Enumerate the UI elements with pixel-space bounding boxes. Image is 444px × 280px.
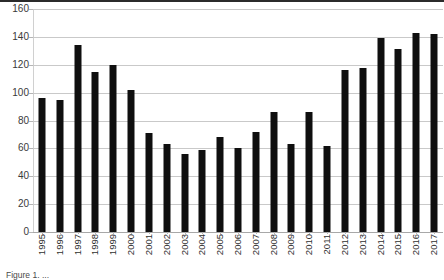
bar-slot (158, 9, 176, 232)
x-axis-tick-label: 2007 (251, 234, 261, 255)
bar-slot (122, 9, 140, 232)
bar[interactable] (128, 90, 135, 232)
figure-caption: Figure 1. ... (6, 270, 442, 280)
bar-slot (140, 9, 158, 232)
bar[interactable] (252, 132, 259, 232)
x-tick-slot: 2009 (283, 234, 301, 268)
x-tick-slot: 2007 (247, 234, 265, 268)
x-tick-slot: 2000 (122, 234, 140, 268)
x-axis-tick-labels: 1995199619971998199920002001200220032004… (33, 234, 443, 268)
x-axis-tick-label: 2009 (287, 234, 297, 255)
bar[interactable] (431, 34, 438, 232)
x-tick-slot: 1999 (104, 234, 122, 268)
bar[interactable] (181, 154, 188, 232)
bar-slot (193, 9, 211, 232)
x-tick-slot: 2010 (300, 234, 318, 268)
y-axis-tick-labels: 020406080100120140160 (0, 9, 29, 232)
y-axis-tick-label: 160 (0, 4, 29, 14)
bar[interactable] (413, 33, 420, 232)
bar[interactable] (377, 38, 384, 232)
x-axis-tick-label: 2002 (162, 234, 172, 255)
bar[interactable] (341, 70, 348, 232)
bar[interactable] (92, 72, 99, 232)
x-axis-tick-label: 1996 (55, 234, 65, 255)
bar[interactable] (163, 144, 170, 232)
bar[interactable] (56, 100, 63, 232)
y-axis-tick-label: 80 (0, 116, 29, 126)
x-tick-slot: 2016 (407, 234, 425, 268)
bar-slot (300, 9, 318, 232)
x-axis-tick-label: 1998 (91, 234, 101, 255)
bar-slot (229, 9, 247, 232)
x-tick-slot: 2011 (318, 234, 336, 268)
bar-slot (425, 9, 443, 232)
bar-slot (354, 9, 372, 232)
bar-slot (283, 9, 301, 232)
bar-slot (104, 9, 122, 232)
y-axis-tick-mark (29, 232, 33, 233)
x-tick-slot: 2014 (372, 234, 390, 268)
y-axis-tick-label: 140 (0, 32, 29, 42)
x-tick-slot: 2004 (193, 234, 211, 268)
bar-slot (390, 9, 408, 232)
bar-series (33, 9, 443, 232)
x-axis-tick-label: 2003 (180, 234, 190, 255)
x-tick-slot: 2001 (140, 234, 158, 268)
y-axis-tick-label: 120 (0, 60, 29, 70)
figure-top-rule (0, 0, 444, 2)
bar-slot (211, 9, 229, 232)
x-axis-tick-label: 2016 (412, 234, 422, 255)
x-axis-tick-label: 1995 (37, 234, 47, 255)
bar[interactable] (324, 146, 331, 232)
bar[interactable] (145, 133, 152, 232)
x-tick-slot: 2012 (336, 234, 354, 268)
bar-slot (33, 9, 51, 232)
bar[interactable] (306, 112, 313, 232)
y-axis-tick-label: 100 (0, 88, 29, 98)
bar[interactable] (74, 45, 81, 232)
x-tick-slot: 2015 (390, 234, 408, 268)
plot-area (33, 9, 443, 232)
bar-slot (318, 9, 336, 232)
x-axis-tick-label: 2015 (394, 234, 404, 255)
bar[interactable] (110, 65, 117, 232)
bar[interactable] (395, 49, 402, 232)
x-axis-tick-label: 2011 (322, 234, 332, 254)
bar[interactable] (199, 150, 206, 232)
bar-slot (407, 9, 425, 232)
bar-slot (372, 9, 390, 232)
x-tick-slot: 2005 (211, 234, 229, 268)
x-tick-slot: 1996 (51, 234, 69, 268)
bar[interactable] (38, 98, 45, 232)
x-tick-slot: 2008 (265, 234, 283, 268)
bar[interactable] (288, 144, 295, 232)
x-axis-tick-label: 2004 (198, 234, 208, 255)
bar[interactable] (217, 137, 224, 232)
x-axis-tick-label: 1997 (73, 234, 83, 255)
x-axis-tick-label: 2006 (233, 234, 243, 255)
bar-slot (247, 9, 265, 232)
x-axis-tick-label: 2010 (305, 234, 315, 255)
y-axis-tick-label: 0 (0, 227, 29, 237)
bar[interactable] (270, 112, 277, 232)
x-axis-tick-label: 2001 (144, 234, 154, 255)
x-tick-slot: 1998 (86, 234, 104, 268)
bar-slot (336, 9, 354, 232)
bar[interactable] (234, 148, 241, 232)
x-axis-tick-label: 2012 (340, 234, 350, 255)
y-axis-tick-label: 20 (0, 199, 29, 209)
bar-slot (176, 9, 194, 232)
x-axis-tick-label: 2017 (429, 234, 439, 255)
x-tick-slot: 2002 (158, 234, 176, 268)
y-axis-tick-label: 60 (0, 143, 29, 153)
x-tick-slot: 2017 (425, 234, 443, 268)
x-tick-slot: 2003 (176, 234, 194, 268)
x-tick-slot: 2013 (354, 234, 372, 268)
x-axis-tick-label: 2008 (269, 234, 279, 255)
bar-slot (265, 9, 283, 232)
bar[interactable] (359, 68, 366, 232)
bar-slot (51, 9, 69, 232)
bar-slot (69, 9, 87, 232)
x-tick-slot: 1997 (69, 234, 87, 268)
